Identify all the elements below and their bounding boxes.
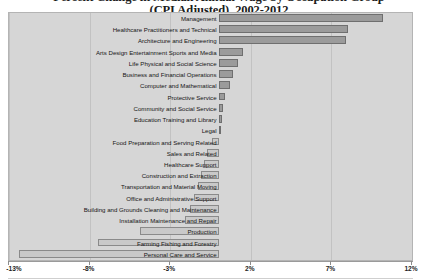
- category-label: Legal: [202, 125, 217, 136]
- x-tick-label: 12%: [404, 265, 417, 272]
- bar: [198, 182, 219, 190]
- bar: [194, 194, 218, 202]
- gridline-12: [412, 13, 413, 260]
- category-label: Education Training and Library: [134, 114, 217, 125]
- bar: [201, 171, 219, 179]
- bar: [185, 216, 219, 224]
- bar-row: Building and Grounds Cleaning and Mainte…: [9, 204, 412, 215]
- category-label: Community and Social Service: [134, 103, 217, 114]
- bar-row: Architecture and Engineering: [9, 35, 412, 46]
- x-tick-label: 2%: [245, 265, 255, 272]
- bar-row: Sales and Related: [9, 148, 412, 159]
- bar-row: Management: [9, 13, 412, 24]
- bar: [219, 14, 383, 22]
- bar: [219, 59, 238, 67]
- bar-row: Arts Design Entertainment Sports and Med…: [9, 47, 412, 58]
- chart-root: Percent Change in Median Annual Wage by …: [0, 0, 438, 280]
- bar: [219, 36, 346, 44]
- category-label: Protective Service: [167, 92, 216, 103]
- bar: [212, 138, 218, 146]
- bar: [219, 93, 225, 101]
- bar: [219, 115, 222, 123]
- bar: [219, 25, 348, 33]
- bar: [19, 250, 219, 258]
- bar: [219, 70, 234, 78]
- bar-row: Legal: [9, 125, 412, 136]
- bar-row: Community and Social Service: [9, 103, 412, 114]
- category-label: Business and Financial Operations: [122, 69, 216, 80]
- bar: [207, 149, 218, 157]
- bar-row: Construction and Extraction: [9, 170, 412, 181]
- x-tick-label: 7%: [326, 265, 336, 272]
- x-axis: -13%-8%-3%2%7%12%: [8, 261, 413, 280]
- bar-row: Healthcare Support: [9, 159, 412, 170]
- bar-series: ManagementHealthcare Practitioners and T…: [9, 13, 412, 260]
- category-label: Life Physical and Social Science: [129, 58, 217, 69]
- category-label: Food Preparation and Serving Related: [113, 137, 217, 148]
- plot-area: ManagementHealthcare Practitioners and T…: [8, 12, 413, 261]
- category-label: Healthcare Practitioners and Technical: [113, 24, 217, 35]
- bar-row: Installation Maintenance and Repair: [9, 215, 412, 226]
- category-label: Architecture and Engineering: [138, 35, 217, 46]
- bar: [190, 205, 219, 213]
- bar-row: Personal Care and Service: [9, 249, 412, 260]
- bar: [219, 104, 224, 112]
- bar-row: Food Preparation and Serving Related: [9, 137, 412, 148]
- category-label: Arts Design Entertainment Sports and Med…: [96, 47, 217, 58]
- bar: [204, 160, 219, 168]
- bar: [140, 227, 219, 235]
- bar-row: Office and Administrative Support: [9, 193, 412, 204]
- category-label: Computer and Mathematical: [140, 80, 217, 91]
- bar: [219, 126, 221, 134]
- bar: [219, 48, 243, 56]
- x-axis-line: [8, 261, 413, 262]
- category-label: Management: [181, 13, 217, 24]
- bar-row: Transportation and Material Moving: [9, 181, 412, 192]
- bar-row: Healthcare Practitioners and Technical: [9, 24, 412, 35]
- x-axis-baseline: [8, 278, 413, 279]
- bar: [219, 81, 230, 89]
- bar-row: Farming Fishing and Forestry: [9, 238, 412, 249]
- bar: [98, 239, 219, 247]
- x-tick-label: -13%: [6, 265, 21, 272]
- bar-row: Life Physical and Social Science: [9, 58, 412, 69]
- x-tick-label: -8%: [83, 265, 95, 272]
- bar-row: Production: [9, 226, 412, 237]
- bar-row: Protective Service: [9, 92, 412, 103]
- bar-row: Computer and Mathematical: [9, 80, 412, 91]
- bar-row: Business and Financial Operations: [9, 69, 412, 80]
- x-tick-label: -3%: [163, 265, 175, 272]
- bar-row: Education Training and Library: [9, 114, 412, 125]
